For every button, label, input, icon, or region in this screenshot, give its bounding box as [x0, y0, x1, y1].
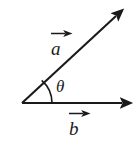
vector-a-label: a: [51, 39, 61, 58]
vector-b-label: b: [69, 119, 79, 138]
vector-angle-diagram: a b θ: [0, 0, 139, 150]
vector-a-line: [22, 16, 116, 103]
angle-theta-label: θ: [56, 78, 64, 95]
